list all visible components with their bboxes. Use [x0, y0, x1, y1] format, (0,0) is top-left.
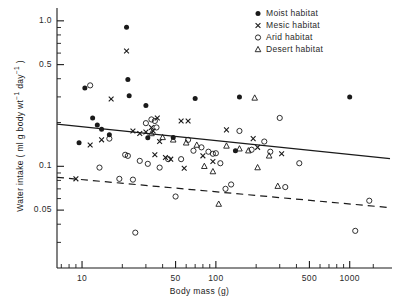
cross-icon [252, 19, 266, 31]
data-point-filled-circle [143, 103, 148, 108]
data-point-filled-circle [77, 140, 82, 145]
data-point-cross [88, 143, 93, 148]
data-point-triangle [255, 164, 261, 169]
legend-label: Mesic habitat [266, 20, 320, 30]
data-point-open-circle [130, 177, 135, 182]
x-axis-title: Body mass (g) [0, 286, 399, 296]
data-point-open-circle [97, 165, 102, 170]
legend-label: Moist habitat [266, 8, 318, 18]
dashed-regression [57, 177, 390, 207]
plot-canvas [0, 0, 399, 305]
legend-item-3: Desert habitat [252, 43, 323, 55]
data-point-filled-circle [125, 77, 130, 82]
x-tick-label: 10 [64, 273, 100, 283]
data-point-triangle [216, 201, 222, 206]
y-tick-label: 1.0 [18, 15, 52, 25]
data-point-cross [201, 153, 206, 158]
data-point-open-circle [137, 158, 142, 163]
data-point-filled-circle [347, 94, 352, 99]
data-point-filled-circle [127, 93, 132, 98]
data-point-open-circle [157, 165, 162, 170]
legend-label: Arid habitat [266, 32, 313, 42]
x-tick-label: 50 [158, 273, 194, 283]
data-point-triangle [275, 183, 281, 188]
data-point-open-circle [117, 176, 122, 181]
data-point-open-circle [237, 128, 242, 133]
data-point-triangle [255, 46, 261, 51]
data-point-filled-circle [99, 127, 104, 132]
data-point-open-circle [255, 35, 260, 40]
y-axis-title: Water intake ( ml g body wt−1 day−1 ) [13, 56, 25, 216]
x-tick-label: 100 [198, 273, 234, 283]
open-circle-icon [252, 31, 266, 43]
series-arid-habitat [88, 83, 372, 235]
triangle-icon [252, 43, 266, 55]
data-point-cross [255, 145, 260, 150]
data-point-triangle [246, 148, 252, 153]
y-tick-label: 0.5 [18, 59, 52, 69]
legend: Moist habitatMesic habitatArid habitatDe… [252, 7, 323, 55]
data-point-open-circle [262, 139, 267, 144]
legend-label: Desert habitat [266, 44, 323, 54]
series-mesic-habitat [74, 49, 285, 182]
data-point-open-circle [88, 83, 93, 88]
data-point-open-circle [133, 230, 138, 235]
y-tick-label: 0.1 [18, 160, 52, 170]
data-point-cross [152, 152, 157, 157]
data-point-cross [224, 127, 229, 132]
data-point-cross [131, 129, 136, 134]
data-point-open-circle [277, 115, 282, 120]
data-point-cross [251, 136, 256, 141]
data-point-open-circle [154, 125, 159, 130]
legend-item-1: Mesic habitat [252, 19, 323, 31]
data-point-cross [99, 137, 104, 142]
scatter-plot-figure: Water intake ( ml g body wt−1 day−1 ) Bo… [0, 0, 399, 305]
data-point-cross [179, 119, 184, 124]
data-point-cross [182, 166, 187, 171]
data-point-open-circle [173, 194, 178, 199]
data-point-triangle [210, 168, 216, 173]
data-point-open-circle [145, 161, 150, 166]
data-point-triangle [194, 142, 200, 147]
data-point-filled-circle [193, 96, 198, 101]
data-point-open-circle [143, 121, 148, 126]
filled-circle-icon [252, 7, 266, 19]
data-point-open-circle [283, 184, 288, 189]
data-point-open-circle [218, 161, 223, 166]
x-tick-label: 1000 [332, 273, 368, 283]
data-point-cross [109, 97, 114, 102]
legend-item-2: Arid habitat [252, 31, 323, 43]
data-point-triangle [224, 143, 230, 148]
data-point-cross [256, 23, 261, 28]
solid-regression [57, 124, 390, 158]
data-point-cross [124, 49, 129, 54]
data-point-open-circle [353, 228, 358, 233]
data-point-cross [279, 151, 284, 156]
data-point-open-circle [229, 182, 234, 187]
data-point-open-circle [367, 198, 372, 203]
data-point-filled-circle [124, 25, 129, 30]
data-point-open-circle [223, 186, 228, 191]
data-point-triangle [237, 146, 243, 151]
data-point-open-circle [191, 148, 196, 153]
data-point-open-circle [179, 157, 184, 162]
data-point-filled-circle [95, 123, 100, 128]
data-point-triangle [266, 153, 272, 158]
data-point-open-circle [297, 161, 302, 166]
data-point-cross [137, 131, 142, 136]
data-point-filled-circle [82, 86, 87, 91]
x-tick-label: 500 [291, 273, 327, 283]
data-point-triangle [252, 95, 258, 100]
data-point-cross [210, 159, 215, 164]
data-point-triangle [202, 163, 208, 168]
data-point-cross [186, 119, 191, 124]
data-point-filled-circle [256, 11, 261, 16]
y-tick-label: 0.05 [18, 204, 52, 214]
legend-item-0: Moist habitat [252, 7, 323, 19]
data-point-filled-circle [237, 94, 242, 99]
data-point-filled-circle [90, 115, 95, 120]
